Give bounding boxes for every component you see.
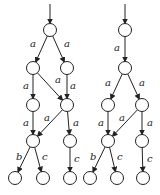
edge-label: c bbox=[42, 151, 48, 162]
edge-label: a bbox=[119, 112, 125, 123]
edge-label: a bbox=[30, 38, 36, 49]
state-node bbox=[137, 172, 150, 185]
edge-label: c bbox=[74, 153, 80, 164]
edge-label: a bbox=[70, 80, 76, 91]
state-node bbox=[102, 99, 115, 112]
transition-edge bbox=[53, 36, 65, 62]
transition-edge bbox=[112, 110, 137, 137]
state-node bbox=[64, 135, 77, 148]
edge-label: a bbox=[98, 117, 104, 128]
state-node bbox=[84, 172, 97, 185]
state-node bbox=[136, 99, 149, 112]
edge-label: c bbox=[147, 153, 153, 164]
edge-label: a bbox=[55, 74, 61, 85]
state-node bbox=[102, 135, 115, 148]
transition-edge bbox=[37, 110, 62, 137]
edge-label: a bbox=[73, 117, 79, 128]
state-node bbox=[61, 62, 74, 75]
transition-edge bbox=[68, 111, 70, 134]
edge-label: a bbox=[105, 77, 111, 88]
state-node bbox=[111, 172, 124, 185]
edge-label: c bbox=[117, 151, 123, 162]
transition-edge bbox=[36, 36, 48, 62]
state-node bbox=[61, 99, 74, 112]
transition-edge bbox=[142, 147, 143, 171]
transition-edge bbox=[35, 147, 42, 171]
automata-diagram: aaaaaaaabccaaaaaabcc bbox=[0, 0, 160, 195]
state-node bbox=[136, 135, 149, 148]
state-node bbox=[44, 24, 57, 37]
state-node bbox=[119, 24, 132, 37]
edge-label: b bbox=[90, 151, 96, 162]
transition-edge bbox=[110, 147, 116, 171]
edge-label: a bbox=[23, 117, 29, 128]
state-node bbox=[27, 62, 40, 75]
edge-label: a bbox=[139, 77, 145, 88]
transition-edge bbox=[128, 74, 140, 99]
state-node bbox=[27, 99, 40, 112]
edge-label: a bbox=[44, 112, 50, 123]
state-node bbox=[9, 172, 22, 185]
transition-edge bbox=[111, 74, 123, 99]
edge-label: a bbox=[23, 80, 29, 91]
state-node bbox=[64, 172, 77, 185]
state-node bbox=[27, 135, 40, 148]
edge-label: b bbox=[16, 151, 22, 162]
edge-label: a bbox=[64, 38, 70, 49]
edge-label: a bbox=[147, 117, 153, 128]
edge-label: a bbox=[114, 42, 120, 53]
state-node bbox=[37, 172, 50, 185]
state-node bbox=[119, 62, 132, 75]
